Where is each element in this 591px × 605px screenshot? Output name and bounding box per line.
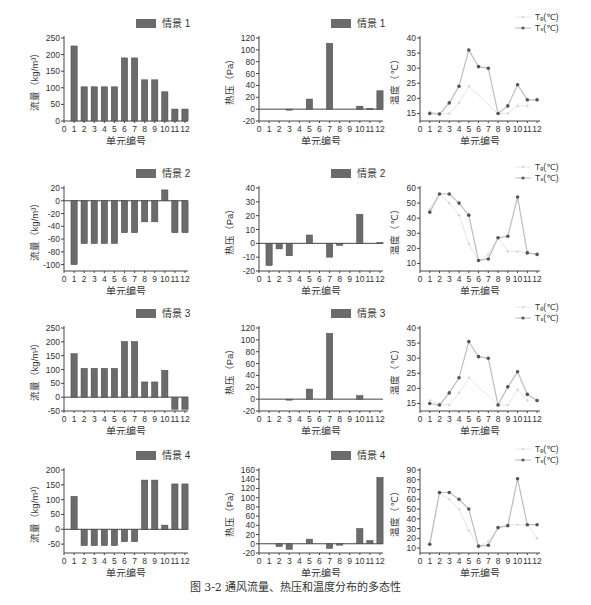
svg-text:4: 4 xyxy=(102,274,107,284)
svg-text:200: 200 xyxy=(46,465,60,475)
svg-text:Tₑ(℃): Tₑ(℃) xyxy=(535,444,559,454)
chart-flow-2: -100-80-60-40-200200123456789101112单元编号流… xyxy=(0,150,197,299)
svg-text:情景 4: 情景 4 xyxy=(162,449,191,461)
svg-text:7: 7 xyxy=(486,556,491,566)
svg-text:80: 80 xyxy=(246,347,256,357)
svg-text:Tₛ(℃): Tₛ(℃) xyxy=(535,173,559,183)
svg-text:10: 10 xyxy=(355,274,365,284)
svg-text:120: 120 xyxy=(241,323,255,333)
svg-text:10: 10 xyxy=(513,124,523,134)
svg-text:150: 150 xyxy=(46,66,60,76)
svg-text:10: 10 xyxy=(160,556,170,566)
svg-text:6: 6 xyxy=(122,274,127,284)
svg-text:5: 5 xyxy=(466,556,471,566)
svg-text:1: 1 xyxy=(427,414,432,424)
svg-text:10: 10 xyxy=(160,414,170,424)
svg-text:100: 100 xyxy=(241,335,255,345)
svg-text:单元编号: 单元编号 xyxy=(301,135,341,145)
svg-text:单元编号: 单元编号 xyxy=(301,567,341,577)
svg-text:150: 150 xyxy=(46,351,60,361)
svg-text:5: 5 xyxy=(466,124,471,134)
svg-text:5: 5 xyxy=(307,414,312,424)
svg-text:1: 1 xyxy=(427,556,432,566)
svg-text:30: 30 xyxy=(407,524,417,534)
chart-pressure-1: -200204060801001200123456789101112单元编号热压… xyxy=(195,0,392,149)
svg-text:情景 3: 情景 3 xyxy=(162,307,191,319)
svg-text:单元编号: 单元编号 xyxy=(460,135,500,145)
svg-text:单元编号: 单元编号 xyxy=(106,135,146,145)
svg-text:0: 0 xyxy=(62,124,67,134)
svg-text:情景 2: 情景 2 xyxy=(357,167,386,179)
svg-text:温度（℃）: 温度（℃） xyxy=(390,486,400,537)
svg-text:4: 4 xyxy=(297,414,302,424)
svg-text:2: 2 xyxy=(277,124,282,134)
svg-text:11: 11 xyxy=(523,556,532,566)
svg-text:5: 5 xyxy=(466,274,471,284)
svg-text:11: 11 xyxy=(365,274,374,284)
svg-text:4: 4 xyxy=(297,124,302,134)
svg-text:7: 7 xyxy=(327,274,332,284)
svg-text:250: 250 xyxy=(46,323,60,333)
svg-text:0: 0 xyxy=(250,539,255,549)
svg-text:11: 11 xyxy=(170,124,179,134)
svg-text:30: 30 xyxy=(246,197,256,207)
svg-text:6: 6 xyxy=(317,414,322,424)
svg-text:8: 8 xyxy=(496,124,501,134)
svg-text:6: 6 xyxy=(317,124,322,134)
svg-text:8: 8 xyxy=(337,414,342,424)
svg-text:5: 5 xyxy=(307,124,312,134)
svg-text:热压（Pa）: 热压（Pa） xyxy=(224,54,235,106)
svg-text:40: 40 xyxy=(407,323,417,333)
svg-text:150: 150 xyxy=(46,480,60,490)
chart-temp-2: 1020304050600123456789101112单元编号温度（℃）Tₑ(… xyxy=(390,150,587,299)
svg-text:10: 10 xyxy=(355,556,365,566)
svg-text:8: 8 xyxy=(142,556,147,566)
svg-text:4: 4 xyxy=(457,556,462,566)
svg-text:30: 30 xyxy=(407,353,417,363)
svg-text:10: 10 xyxy=(160,274,170,284)
svg-text:0: 0 xyxy=(257,556,262,566)
svg-text:7: 7 xyxy=(132,414,137,424)
svg-text:4: 4 xyxy=(457,124,462,134)
svg-text:11: 11 xyxy=(523,414,532,424)
svg-text:80: 80 xyxy=(246,57,256,67)
svg-text:250: 250 xyxy=(46,33,60,43)
chart-temp-4: 1020304050607080900123456789101112单元编号温度… xyxy=(390,432,587,581)
svg-text:-20: -20 xyxy=(243,266,256,276)
svg-text:11: 11 xyxy=(170,274,179,284)
svg-text:单元编号: 单元编号 xyxy=(460,567,500,577)
svg-text:120: 120 xyxy=(241,483,255,493)
svg-text:0: 0 xyxy=(418,124,423,134)
chart-flow-4: -500501001502000123456789101112单元编号流量（kg… xyxy=(0,432,197,581)
svg-text:20: 20 xyxy=(407,533,417,543)
svg-text:0: 0 xyxy=(257,124,262,134)
svg-text:1: 1 xyxy=(72,124,77,134)
svg-text:2: 2 xyxy=(437,556,442,566)
svg-text:8: 8 xyxy=(496,556,501,566)
svg-text:60: 60 xyxy=(246,359,256,369)
svg-text:50: 50 xyxy=(51,99,61,109)
svg-text:100: 100 xyxy=(241,493,255,503)
svg-text:20: 20 xyxy=(246,382,256,392)
svg-text:流量（kg/m³）: 流量（kg/m³） xyxy=(29,198,40,262)
svg-text:11: 11 xyxy=(170,556,179,566)
svg-text:8: 8 xyxy=(337,274,342,284)
svg-text:60: 60 xyxy=(407,183,417,193)
svg-text:3: 3 xyxy=(447,274,452,284)
chart-pressure-4: -200204060801001201401600123456789101112… xyxy=(195,432,392,581)
svg-text:10: 10 xyxy=(407,258,417,268)
svg-text:12: 12 xyxy=(532,274,542,284)
svg-text:50: 50 xyxy=(407,198,417,208)
svg-text:3: 3 xyxy=(287,124,292,134)
chart-flow-3: -500501001502002500123456789101112单元编号流量… xyxy=(0,290,197,439)
svg-text:20: 20 xyxy=(407,383,417,393)
svg-text:5: 5 xyxy=(112,556,117,566)
svg-text:-20: -20 xyxy=(48,209,61,219)
svg-text:6: 6 xyxy=(476,124,481,134)
svg-text:0: 0 xyxy=(250,104,255,114)
svg-text:160: 160 xyxy=(241,465,255,475)
svg-text:2: 2 xyxy=(437,274,442,284)
svg-text:20: 20 xyxy=(246,211,256,221)
svg-text:1: 1 xyxy=(72,274,77,284)
svg-text:12: 12 xyxy=(180,124,190,134)
